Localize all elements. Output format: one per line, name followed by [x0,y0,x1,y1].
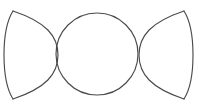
triple-goddess-symbol [0,0,197,107]
canvas-background [0,0,197,107]
